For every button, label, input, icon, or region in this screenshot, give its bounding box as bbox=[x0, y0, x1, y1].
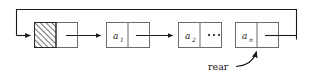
rear-pointer-arrow bbox=[236, 52, 257, 67]
node-a1-subscript: 1 bbox=[120, 36, 124, 43]
linked-list-diagram: a 1 a 2 a n rear bbox=[0, 0, 315, 79]
node-an: a n bbox=[236, 23, 297, 48]
node-an-label: a bbox=[242, 31, 247, 41]
node-head-hatched-data-field bbox=[35, 23, 57, 48]
node-head bbox=[35, 23, 102, 48]
node-a2-label: a bbox=[185, 31, 190, 41]
diagram-canvas: a 1 a 2 a n rear bbox=[0, 0, 315, 79]
rear-annotation: rear bbox=[208, 52, 257, 73]
node-a2-subscript: 2 bbox=[191, 36, 196, 43]
node-a1: a 1 bbox=[107, 23, 174, 48]
node-an-subscript: n bbox=[249, 36, 253, 43]
node-a1-label: a bbox=[113, 31, 118, 41]
rear-label: rear bbox=[208, 61, 229, 72]
ellipsis-icon bbox=[208, 34, 220, 36]
